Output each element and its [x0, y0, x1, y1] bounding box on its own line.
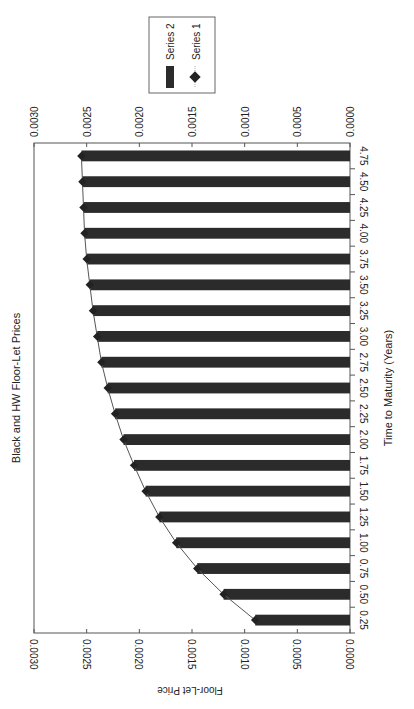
category-tick-label: 4.00 [358, 224, 369, 244]
value-tick-label-top: 0.0000 [345, 106, 356, 137]
bar [115, 408, 350, 419]
category-tick-label: 1.75 [358, 456, 369, 476]
category-tick-label: 4.25 [358, 198, 369, 218]
bar [124, 434, 350, 445]
bar [97, 331, 350, 342]
category-tick-label: 0.50 [358, 585, 369, 605]
category-axis: 0.250.500.751.001.251.501.752.002.252.50… [350, 146, 369, 633]
x-axis-label: Time to Maturity (Years) [382, 330, 394, 447]
bar [85, 228, 350, 239]
bar [90, 279, 350, 290]
value-tick-label-bottom: 0.0000 [344, 639, 355, 670]
category-tick-label: 0.25 [358, 610, 369, 630]
category-tick-label: 3.00 [358, 327, 369, 347]
value-tick-label-bottom: 0.0020 [133, 639, 144, 670]
legend-bar-swatch [166, 66, 174, 88]
category-tick-label: 4.50 [358, 172, 369, 192]
category-tick-label: 1.00 [358, 533, 369, 553]
bar [84, 202, 350, 213]
bar [108, 383, 350, 394]
category-tick-label: 3.25 [358, 301, 369, 321]
category-tick-label: 2.75 [358, 352, 369, 372]
legend-label-series-2: Series 2 [165, 23, 176, 60]
bar [224, 589, 350, 600]
category-tick-label: 0.75 [358, 559, 369, 579]
bar-series [81, 150, 350, 625]
floor-let-chart: 0.00000.00000.00050.00050.00100.00100.00… [0, 0, 414, 709]
bar [101, 357, 350, 368]
chart-title: Black and HW Floor-Let Prices [10, 312, 22, 463]
category-tick-label: 2.50 [358, 378, 369, 398]
bar [159, 512, 350, 523]
bar [93, 305, 350, 316]
value-tick-label-bottom: 0.0005 [291, 639, 302, 670]
value-tick-label-top: 0.0005 [292, 106, 303, 137]
bar [87, 254, 350, 265]
value-tick-label-top: 0.0020 [134, 106, 145, 137]
bar [197, 563, 350, 574]
value-tick-label-bottom: 0.0025 [81, 639, 92, 670]
value-tick-label-bottom: 0.0030 [28, 639, 39, 670]
y-axis-label: Floor-Let Price [157, 685, 223, 696]
bar [134, 460, 350, 471]
bar [146, 486, 350, 497]
bar [81, 150, 350, 161]
category-tick-label: 2.00 [358, 430, 369, 450]
category-tick-label: 3.50 [358, 275, 369, 295]
legend-label-series-1: Series 1 [191, 23, 202, 60]
value-tick-label-bottom: 0.0015 [186, 639, 197, 670]
category-tick-label: 1.50 [358, 481, 369, 501]
bar [82, 176, 350, 187]
category-tick-label: 1.25 [358, 507, 369, 527]
bar [255, 615, 350, 626]
value-tick-label-top: 0.0025 [82, 106, 93, 137]
bar [176, 537, 350, 548]
value-tick-label-top: 0.0030 [29, 106, 40, 137]
value-tick-label-top: 0.0010 [240, 106, 251, 137]
value-tick-label-bottom: 0.0010 [239, 639, 250, 670]
category-tick-label: 3.75 [358, 249, 369, 269]
value-tick-label-top: 0.0015 [187, 106, 198, 137]
category-tick-label: 2.25 [358, 404, 369, 424]
category-tick-label: 4.75 [358, 146, 369, 166]
legend: Series 2 Series 1 [149, 17, 215, 93]
